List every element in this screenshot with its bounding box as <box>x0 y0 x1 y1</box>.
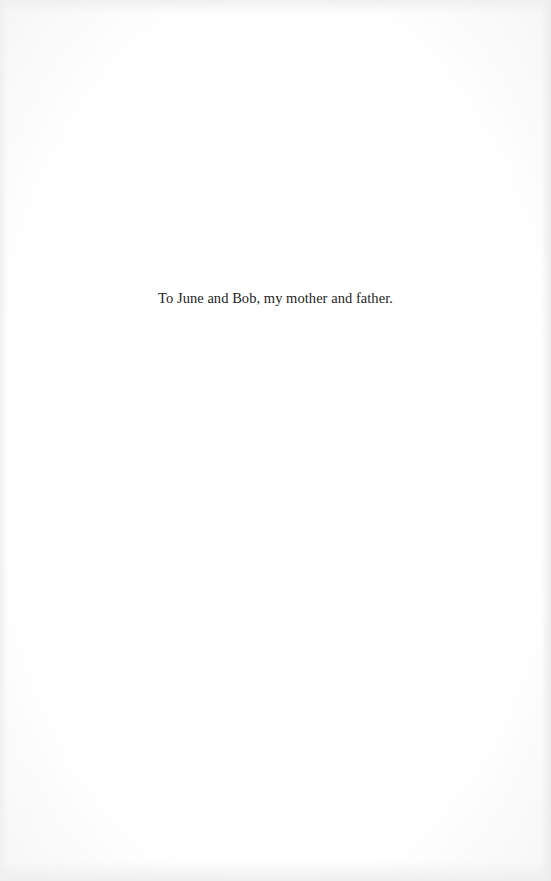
page-edge-shadow-bottom <box>0 861 551 881</box>
page-edge-shadow-right <box>541 0 551 881</box>
page-edge-shadow-top <box>0 0 551 14</box>
page-edge-shadow-left <box>0 0 8 881</box>
dedication-text: To June and Bob, my mother and father. <box>0 290 551 307</box>
book-page: To June and Bob, my mother and father. <box>0 0 551 881</box>
